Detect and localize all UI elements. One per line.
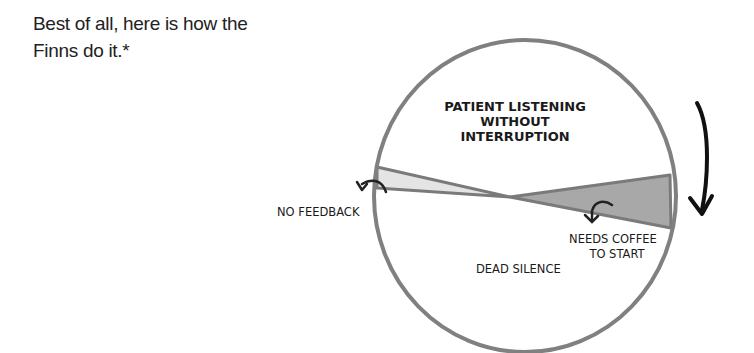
label-patient-listening-line1: PATIENT LISTENING <box>444 99 586 114</box>
left-wedge-no-feedback <box>377 167 510 197</box>
label-needs-coffee-line1: NEEDS COFFEE <box>569 232 657 246</box>
conversation-wheel-diagram: PATIENT LISTENING WITHOUT INTERRUPTION N… <box>0 0 754 353</box>
label-patient-listening-line3: INTERRUPTION <box>460 129 569 144</box>
label-patient-listening-line2: WITHOUT <box>480 114 550 129</box>
clockwise-arrow-icon <box>697 103 707 210</box>
label-dead-silence: DEAD SILENCE <box>476 262 561 276</box>
label-no-feedback: NO FEEDBACK <box>277 205 360 219</box>
label-needs-coffee-line2: TO START <box>588 247 645 261</box>
